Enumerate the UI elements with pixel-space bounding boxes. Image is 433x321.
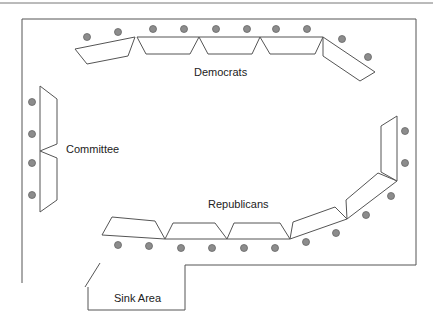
committee-label: Committee	[66, 143, 119, 155]
committee-desks	[40, 86, 57, 212]
floor-plan-diagram: Democrats Committee Republicans Sink A	[0, 0, 433, 321]
democrats-label: Democrats	[194, 66, 248, 78]
republicans-label: Republicans	[208, 198, 269, 210]
committee-seats	[29, 99, 36, 199]
sink-area-label: Sink Area	[114, 292, 162, 304]
republicans-desks	[102, 116, 397, 239]
door	[85, 263, 100, 287]
